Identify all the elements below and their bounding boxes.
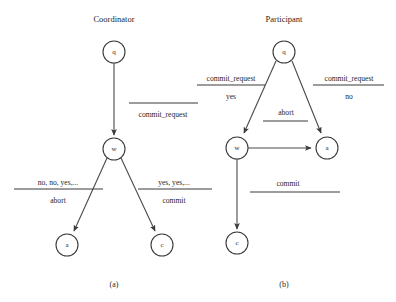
label-b-yes: commit_request yes [197, 74, 265, 101]
edge-b-q-to-w [244, 61, 276, 133]
panel-a-title: Coordinator [93, 14, 134, 24]
label-a-abort: no, no, yes,... abort [14, 178, 103, 205]
figure-canvas: Coordinator q w a c commit_request no, n… [0, 0, 396, 302]
node-b-c-label: c [235, 239, 238, 247]
panel-b-title: Participant [266, 14, 303, 24]
edge-a-w-to-c [121, 158, 155, 231]
label-b-yes-below: yes [226, 92, 236, 101]
two-phase-commit-figure: Coordinator q w a c commit_request no, n… [0, 0, 396, 302]
label-b-abort: abort [263, 108, 308, 121]
label-a-commit-request: commit_request [129, 103, 198, 119]
label-a-abort-above: no, no, yes,... [38, 178, 79, 187]
label-a-commit-above: yes, yes,... [158, 178, 190, 187]
label-a-commit: yes, yes,... commit [138, 178, 212, 205]
panel-a-caption: (a) [110, 280, 119, 289]
panel-b: Participant q w a c commit_request yes [197, 14, 384, 289]
label-b-commit: commit [250, 179, 340, 192]
label-b-no: commit_request no [313, 74, 384, 101]
label-a-commit-below: commit [162, 196, 186, 205]
panel-a: Coordinator q w a c commit_request no, n… [14, 14, 212, 289]
label-b-no-above: commit_request [325, 74, 375, 83]
label-b-abort-above: abort [278, 108, 294, 117]
label-b-commit-above: commit [276, 179, 300, 188]
label-a-abort-below: abort [50, 196, 66, 205]
node-b-q-label: q [282, 48, 286, 56]
edge-b-q-to-a [292, 61, 321, 133]
node-a-c-label: c [160, 241, 163, 249]
label-b-yes-above: commit_request [207, 74, 257, 83]
edge-a-w-to-a [74, 158, 107, 231]
label-a-commit-request-below: commit_request [139, 110, 189, 119]
node-a-q-label: q [112, 48, 116, 56]
panel-b-caption: (b) [279, 280, 289, 289]
label-b-no-below: no [345, 92, 353, 101]
